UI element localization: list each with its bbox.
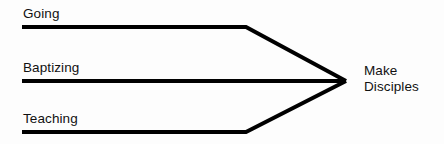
branch-label-baptizing: Baptizing [23,60,79,75]
diagram-canvas: Going Baptizing Teaching Make Disciples [0,0,444,144]
branch-label-teaching: Teaching [23,111,78,126]
outcome-label-line-2: Disciples [364,79,419,95]
outcome-label-make-disciples: Make Disciples [364,63,419,94]
branch-label-going: Going [23,6,60,21]
outcome-label-line-1: Make [364,63,419,79]
